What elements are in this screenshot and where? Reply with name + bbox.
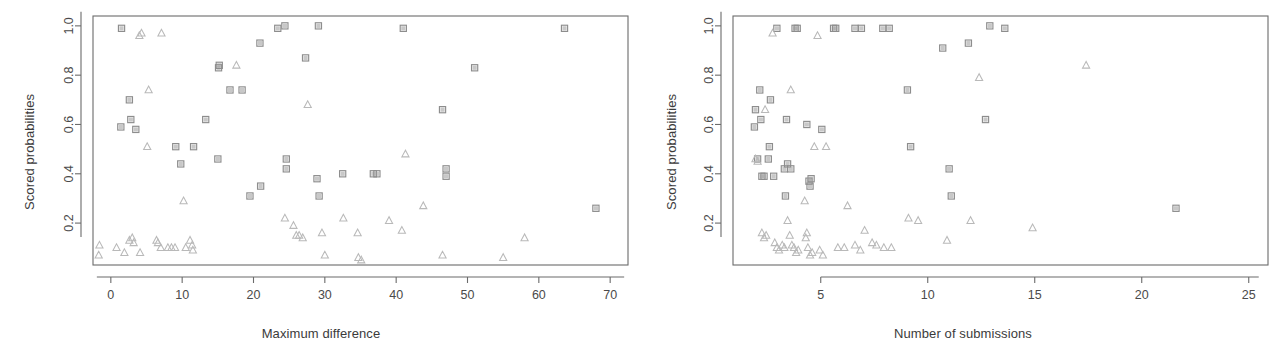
data-point-square-fill	[789, 167, 793, 171]
data-point-square-fill	[240, 88, 244, 92]
plot-area-right: 5101520250.20.40.60.81.0	[642, 0, 1284, 353]
data-point-square-fill	[762, 174, 766, 178]
data-point-square-fill	[983, 117, 987, 121]
data-point-square-fill	[905, 88, 909, 92]
x-axis-tick-label: 30	[318, 288, 332, 302]
data-point-square-fill	[594, 206, 598, 210]
data-point-triangle	[95, 251, 102, 258]
y-axis-tick-label: 0.2	[62, 214, 76, 231]
data-point-triangle	[500, 254, 507, 261]
panel-maximum-difference: 0102030405060700.20.40.60.81.0 Maximum d…	[0, 0, 642, 353]
data-point-triangle	[888, 244, 895, 251]
data-points-group	[95, 23, 599, 263]
data-point-triangle	[157, 244, 164, 251]
data-point-triangle	[823, 143, 830, 150]
data-point-triangle	[905, 214, 912, 221]
x-axis-tick-label: 0	[107, 288, 114, 302]
data-point-square-fill	[809, 177, 813, 181]
data-point-triangle	[121, 249, 128, 256]
data-point-triangle	[304, 101, 311, 108]
data-point-triangle	[976, 74, 983, 81]
data-point-square-fill	[317, 194, 321, 198]
data-point-square-fill	[941, 46, 945, 50]
x-axis-tick-label: 5	[817, 288, 824, 302]
data-point-square-fill	[129, 117, 133, 121]
data-point-square-fill	[966, 41, 970, 45]
y-axis-title-right: Scored probabilities	[664, 94, 679, 210]
scatter-plot-figure: 0102030405060700.20.40.60.81.0 Maximum d…	[0, 0, 1284, 353]
data-point-triangle	[803, 229, 810, 236]
data-point-square-fill	[444, 174, 448, 178]
x-axis-tick-label: 60	[532, 288, 546, 302]
data-point-square-fill	[772, 174, 776, 178]
data-point-square-fill	[315, 177, 319, 181]
x-axis-tick-label: 50	[461, 288, 475, 302]
data-point-triangle	[851, 241, 858, 248]
data-point-triangle	[402, 150, 409, 157]
data-point-square-fill	[562, 26, 566, 30]
data-point-square-fill	[259, 184, 263, 188]
data-point-square-fill	[759, 117, 763, 121]
x-axis-tick-label: 70	[603, 288, 617, 302]
data-point-square-fill	[752, 125, 756, 129]
data-point-square-fill	[174, 145, 178, 149]
data-point-triangle	[861, 227, 868, 234]
y-axis-tick-label: 1.0	[702, 17, 716, 34]
data-point-square-fill	[258, 41, 262, 45]
x-axis-title-right: Number of submissions	[642, 326, 1284, 341]
data-point-square-fill	[127, 98, 131, 102]
data-point-triangle	[787, 86, 794, 93]
data-point-square-fill	[191, 145, 195, 149]
data-point-triangle	[182, 244, 189, 251]
data-point-square-fill	[228, 88, 232, 92]
data-point-square-fill	[284, 157, 288, 161]
y-axis-tick-label: 0.6	[702, 116, 716, 133]
x-axis-tick-label: 40	[389, 288, 403, 302]
y-axis-tick-label: 0.8	[62, 66, 76, 83]
data-point-square-fill	[284, 167, 288, 171]
data-point-triangle	[521, 234, 528, 241]
y-axis-tick-label: 0.4	[702, 165, 716, 182]
data-point-square-fill	[795, 26, 799, 30]
data-point-triangle	[321, 251, 328, 258]
data-point-triangle	[844, 202, 851, 209]
data-point-triangle	[354, 229, 361, 236]
data-point-triangle	[318, 229, 325, 236]
data-point-square-fill	[834, 26, 838, 30]
plot-area-left: 0102030405060700.20.40.60.81.0	[0, 0, 642, 353]
data-point-triangle	[1029, 224, 1036, 231]
data-point-square-fill	[949, 194, 953, 198]
data-point-triangle	[804, 244, 811, 251]
y-axis-tick-label: 0.2	[702, 214, 716, 231]
plot-frame	[733, 16, 1268, 265]
data-point-square-fill	[179, 162, 183, 166]
data-point-square-fill	[853, 26, 857, 30]
data-point-square-fill	[303, 56, 307, 60]
data-point-square-fill	[119, 125, 123, 129]
y-axis-tick-label: 0.6	[62, 116, 76, 133]
data-point-triangle	[290, 222, 297, 229]
data-point-square-fill	[947, 167, 951, 171]
x-axis-tick-label: 15	[1028, 288, 1042, 302]
data-point-square-fill	[753, 108, 757, 112]
data-point-triangle	[385, 217, 392, 224]
data-point-square-fill	[881, 26, 885, 30]
data-point-square-fill	[375, 172, 379, 176]
data-point-triangle	[145, 86, 152, 93]
data-point-triangle	[136, 249, 143, 256]
data-point-square-fill	[341, 172, 345, 176]
data-point-triangle	[113, 244, 120, 251]
data-point-square-fill	[784, 117, 788, 121]
data-point-square-fill	[204, 117, 208, 121]
data-point-square-fill	[217, 63, 221, 67]
data-point-square-fill	[775, 26, 779, 30]
plot-frame	[93, 16, 628, 265]
data-point-square-fill	[805, 122, 809, 126]
data-point-triangle	[158, 29, 165, 36]
y-axis-tick-label: 0.4	[62, 165, 76, 182]
data-point-triangle	[784, 217, 791, 224]
x-axis-tick-label: 20	[1135, 288, 1149, 302]
data-point-square-fill	[248, 194, 252, 198]
data-point-triangle	[841, 244, 848, 251]
data-point-triangle	[811, 143, 818, 150]
